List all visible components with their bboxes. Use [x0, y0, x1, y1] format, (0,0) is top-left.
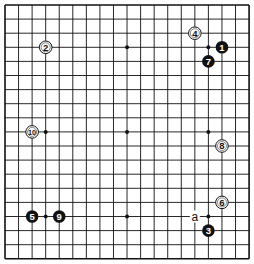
- black-stone: 9: [53, 210, 66, 223]
- move-number: 4: [192, 28, 198, 39]
- star-point: [206, 215, 210, 219]
- star-point: [44, 130, 48, 134]
- star-point: [125, 215, 129, 219]
- star-point: [206, 130, 210, 134]
- white-stone: 8: [216, 140, 229, 153]
- black-stone: 5: [26, 210, 39, 223]
- star-point: [125, 130, 129, 134]
- go-board: a 12345678910: [0, 0, 254, 264]
- move-number: 8: [219, 140, 224, 151]
- move-number: 5: [29, 211, 35, 222]
- white-stone: 2: [39, 41, 52, 54]
- point-label: a: [191, 210, 198, 224]
- white-stone: 4: [189, 27, 202, 40]
- black-stone: 7: [202, 55, 215, 68]
- move-number: 9: [57, 211, 62, 222]
- move-number: 10: [28, 128, 36, 137]
- white-stone: 6: [216, 196, 229, 209]
- star-point: [206, 45, 210, 49]
- move-number: 7: [206, 56, 211, 67]
- white-stone: 10: [26, 126, 39, 139]
- point-labels: a: [190, 210, 200, 224]
- star-point: [125, 45, 129, 49]
- star-point: [44, 215, 48, 219]
- black-stone: 3: [202, 224, 215, 237]
- move-number: 3: [206, 225, 211, 236]
- black-stone: 1: [216, 41, 229, 54]
- move-number: 6: [219, 197, 224, 208]
- move-number: 2: [43, 42, 48, 53]
- move-number: 1: [219, 42, 225, 53]
